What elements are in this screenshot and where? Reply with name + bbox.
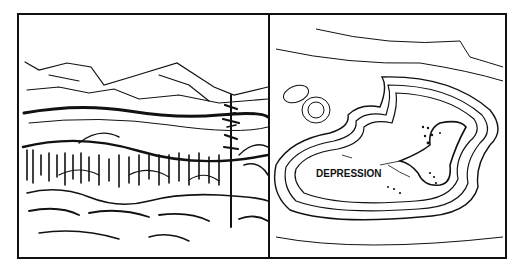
contour-map: DEPRESSION [270,15,503,257]
terrain-sketch-panel [19,15,268,257]
terrain-sketch [19,15,268,257]
depression-label: DEPRESSION [316,168,382,179]
contour-map-panel: DEPRESSION [270,15,503,257]
